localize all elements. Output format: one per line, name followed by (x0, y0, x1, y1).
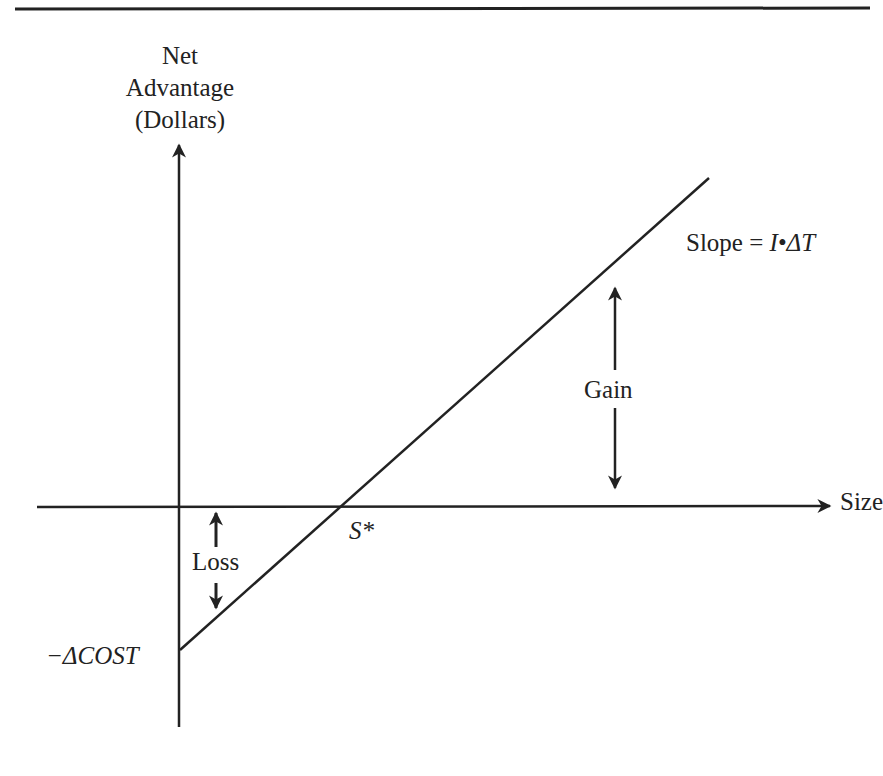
intercept-label-text: −ΔCOST (46, 642, 139, 669)
breakeven-label: S* (349, 516, 374, 546)
net-advantage-line (180, 178, 709, 650)
x-axis-label: Size (840, 487, 883, 517)
loss-label: Loss (192, 547, 239, 577)
intercept-label: −ΔCOST (46, 641, 139, 671)
y-axis-label-line-1: Net (110, 40, 250, 72)
slope-label-prefix: Slope = (686, 229, 770, 256)
slope-label-math: I•ΔT (770, 229, 816, 256)
y-axis-label-line-2: Advantage (110, 72, 250, 104)
gain-label: Gain (584, 375, 633, 405)
x-axis (37, 506, 830, 507)
slope-label: Slope = I•ΔT (686, 228, 815, 258)
top-rule (15, 8, 870, 9)
y-axis-label-line-3: (Dollars) (110, 104, 250, 136)
y-axis-label: Net Advantage (Dollars) (110, 40, 250, 136)
